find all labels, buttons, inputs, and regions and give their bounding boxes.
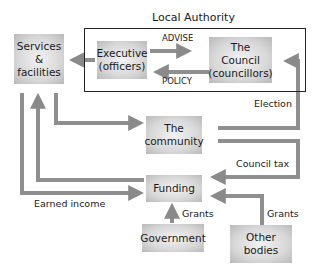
government-grants-label: Grants [182, 208, 214, 219]
advise-label: ADVISE [162, 33, 193, 43]
other-bodies-label-1: Other [244, 231, 279, 244]
funding-label: Funding [153, 182, 195, 195]
services-label-3: facilities [17, 66, 61, 79]
council-tax-label: Council tax [236, 158, 289, 169]
policy-label: POLICY [162, 76, 192, 86]
other-bodies-label-2: bodies [244, 244, 279, 257]
community-label-2: community [144, 135, 203, 148]
executive-label-1: Executive [96, 47, 147, 60]
election-label: Election [254, 98, 292, 109]
community-label-1: The [144, 122, 203, 135]
government-label: Government [140, 232, 205, 245]
earned-income-label: Earned income [34, 198, 105, 209]
services-label-2: & [17, 53, 61, 66]
funding-to-services-arrow [38, 100, 144, 180]
executive-label-2: (officers) [96, 60, 147, 73]
funding-node: Funding [146, 175, 202, 202]
services-label-1: Services [17, 40, 61, 53]
local-authority-title: Local Authority [152, 11, 235, 24]
executive-node: Executive (officers) [97, 41, 147, 79]
government-node: Government [142, 224, 204, 252]
other-grants-arrow [217, 196, 262, 228]
services-to-community-arrow [56, 93, 137, 123]
council-node: The Council (councillors) [209, 37, 272, 83]
community-node: The community [146, 116, 202, 154]
council-label-1: The [208, 41, 272, 54]
council-label-2: Council [208, 54, 272, 67]
local-authority-diagram: Local Authority Services & facilities Ex… [0, 0, 319, 269]
other-bodies-node: Other bodies [230, 225, 292, 263]
other-grants-label: Grants [267, 208, 299, 219]
services-facilities-node: Services & facilities [14, 34, 64, 84]
council-label-3: (councillors) [208, 67, 272, 80]
